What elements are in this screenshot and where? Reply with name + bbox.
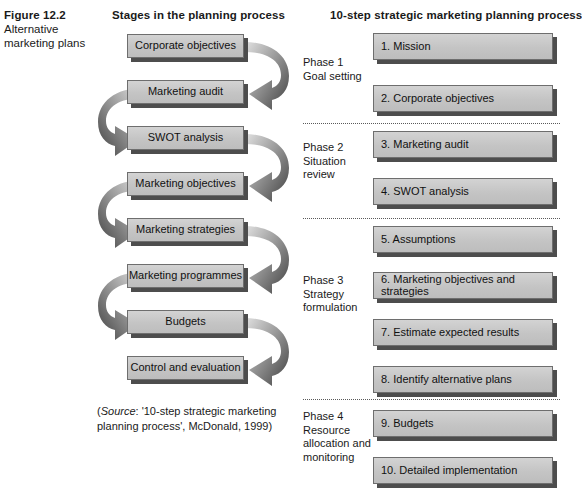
phase-label-3: Phase 3 Strategy formulation xyxy=(303,274,373,315)
phase-4-line4: monitoring xyxy=(303,451,373,465)
phase-1-line2: Goal setting xyxy=(303,70,373,84)
phase-divider-1 xyxy=(303,123,560,124)
phase-4-line1: Phase 4 xyxy=(303,410,373,424)
phase-label-4: Phase 4 Resource allocation and monitori… xyxy=(303,410,373,464)
left-column-heading: Stages in the planning process xyxy=(112,9,285,21)
phase-label-2: Phase 2 Situation review xyxy=(303,141,373,182)
stage-box-1[interactable]: Corporate objectives xyxy=(127,34,244,58)
flow-arrow-right-3 xyxy=(239,220,301,298)
step-box-10[interactable]: 10. Detailed implementation xyxy=(373,457,553,484)
phase-divider-2 xyxy=(303,218,560,219)
phase-3-line3: formulation xyxy=(303,301,373,315)
phase-3-line1: Phase 3 xyxy=(303,274,373,288)
stage-box-7[interactable]: Budgets xyxy=(127,310,244,334)
step-box-1[interactable]: 1. Mission xyxy=(373,33,553,60)
source-text-line2: planning process', McDonald, 1999) xyxy=(97,420,272,432)
step-box-2[interactable]: 2. Corporate objectives xyxy=(373,85,553,112)
stage-box-2[interactable]: Marketing audit xyxy=(127,80,244,104)
figure-title-line2: marketing plans xyxy=(4,36,108,50)
step-box-7[interactable]: 7. Estimate expected results xyxy=(373,319,553,346)
source-note: (Source: '10-step strategic marketingpla… xyxy=(97,404,297,433)
stage-box-4[interactable]: Marketing objectives xyxy=(127,172,244,196)
figure-title-line1: Alternative xyxy=(4,22,108,36)
step-box-8[interactable]: 8. Identify alternative plans xyxy=(373,366,553,393)
phase-divider-3 xyxy=(303,399,560,400)
step-box-3[interactable]: 3. Marketing audit xyxy=(373,131,553,158)
flow-arrow-right-4 xyxy=(239,312,301,390)
figure-caption: Figure 12.2 Alternative marketing plans xyxy=(4,8,108,50)
phase-4-line2: Resource xyxy=(303,424,373,438)
step-box-9[interactable]: 9. Budgets xyxy=(373,410,553,437)
right-column-heading: 10-step strategic marketing planning pro… xyxy=(330,9,582,21)
phase-2-line2: Situation xyxy=(303,155,373,169)
source-label: Source xyxy=(101,405,136,417)
stage-box-8[interactable]: Control and evaluation xyxy=(127,356,244,380)
phase-1-line1: Phase 1 xyxy=(303,56,373,70)
stage-box-5[interactable]: Marketing strategies xyxy=(127,218,244,242)
phase-3-line2: Strategy xyxy=(303,288,373,302)
step-box-4[interactable]: 4. SWOT analysis xyxy=(373,178,553,205)
stage-box-3[interactable]: SWOT analysis xyxy=(127,126,244,150)
step-box-5[interactable]: 5. Assumptions xyxy=(373,226,553,253)
phase-2-line3: review xyxy=(303,168,373,182)
phase-4-line3: allocation and xyxy=(303,437,373,451)
flow-arrow-right-2 xyxy=(239,128,301,206)
phase-label-1: Phase 1 Goal setting xyxy=(303,56,373,83)
source-text-line1: : '10-step strategic marketing xyxy=(136,405,277,417)
stage-box-6[interactable]: Marketing programmes xyxy=(127,264,244,288)
figure-number: Figure 12.2 xyxy=(4,8,108,22)
flow-arrow-right-1 xyxy=(239,36,301,114)
step-box-6[interactable]: 6. Marketing objectives and strategies xyxy=(373,272,553,299)
phase-2-line1: Phase 2 xyxy=(303,141,373,155)
